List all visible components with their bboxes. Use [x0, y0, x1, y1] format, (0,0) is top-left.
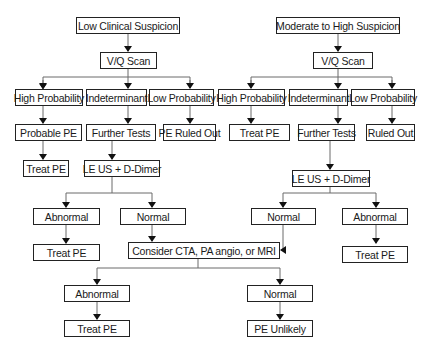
pe-workup-flowchart: Low Clinical Suspicion V/Q Scan High Pro… — [0, 0, 429, 352]
left-indeterminant-node: Indeterminant — [86, 89, 147, 106]
right-vq-scan-node: V/Q Scan — [313, 52, 373, 69]
left-le-us-d-dimer-node: LE US + D-Dimer — [84, 160, 160, 177]
left-low-probability-node: Low Probability — [149, 89, 214, 106]
right-abnormal-node: Abnormal — [342, 208, 408, 225]
probable-pe-node: Probable PE — [15, 124, 82, 141]
right-high-probability-node: High Probability — [218, 89, 285, 106]
left-further-tests-node: Further Tests — [86, 124, 156, 141]
left-abnormal-node: Abnormal — [33, 208, 100, 225]
right-low-probability-node: Low Probability — [351, 89, 415, 106]
left-high-probability-node: High Probability — [15, 89, 83, 106]
left-treat-pe-node: Treat PE — [23, 160, 69, 177]
right-indeterminant-node: Indeterminant — [289, 89, 348, 106]
pe-ruled-out-node: PE Ruled Out — [163, 124, 216, 141]
shared-treat-pe-node: Treat PE — [64, 320, 130, 337]
low-clinical-suspicion-node: Low Clinical Suspicion — [76, 17, 180, 34]
right-treat-pe-node: Treat PE — [229, 124, 290, 141]
left-vq-scan-node: V/Q Scan — [100, 52, 157, 69]
right-normal-node: Normal — [251, 208, 316, 225]
shared-normal-node: Normal — [247, 285, 313, 302]
left-abnormal-treat-pe-node: Treat PE — [33, 244, 100, 261]
right-further-tests-node: Further Tests — [298, 124, 355, 141]
pe-unlikely-node: PE Unlikely — [247, 320, 313, 337]
right-abnormal-treat-pe-node: Treat PE — [342, 246, 408, 263]
ruled-out-node: Ruled Out — [366, 124, 415, 141]
shared-abnormal-node: Abnormal — [64, 285, 130, 302]
moderate-high-suspicion-node: Moderate to High Suspicion — [276, 17, 400, 34]
left-normal-node: Normal — [120, 208, 186, 225]
right-le-us-d-dimer-node: LE US + D-Dimer — [292, 170, 370, 187]
consider-cta-node: Consider CTA, PA angio, or MRI — [128, 242, 280, 259]
